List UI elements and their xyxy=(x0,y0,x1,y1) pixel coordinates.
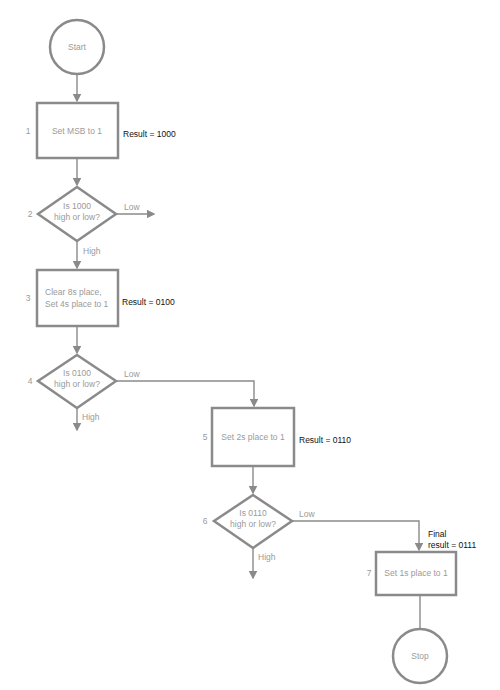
high-label-4: High xyxy=(82,412,100,422)
process-1-text: Set MSB to 1 xyxy=(52,126,102,136)
process-5-text: Set 2s place to 1 xyxy=(221,432,285,442)
decision-4-line1: Is 0100 xyxy=(63,368,91,378)
decision-4-line2: high or low? xyxy=(54,379,100,389)
decision-2-line1: Is 1000 xyxy=(63,201,91,211)
low-label-6: Low xyxy=(299,509,315,519)
start-label: Start xyxy=(68,42,87,52)
high-label-6: High xyxy=(258,552,276,562)
high-label-2: High xyxy=(83,246,101,256)
process-3-line2: Set 4s place to 1 xyxy=(45,299,109,309)
result-5: Result = 0110 xyxy=(299,435,351,445)
step-number-1: 1 xyxy=(26,126,31,136)
low-label-2: Low xyxy=(124,202,140,212)
decision-2-line2: high or low? xyxy=(54,212,100,222)
step-number-2: 2 xyxy=(28,209,33,219)
final-result-line1: Final xyxy=(428,529,447,539)
result-1: Result = 1000 xyxy=(123,129,176,139)
final-result-line2: result = 0111 xyxy=(428,540,476,550)
step-number-5: 5 xyxy=(203,432,208,442)
step-number-3: 3 xyxy=(26,293,31,303)
decision-6-line2: high or low? xyxy=(230,519,276,529)
step-number-6: 6 xyxy=(203,516,208,526)
result-3: Result = 0100 xyxy=(122,297,175,307)
connector-low-6 xyxy=(292,521,419,550)
process-box-3 xyxy=(37,270,118,326)
flowchart: Start Set MSB to 1 1 Result = 1000 Is 10… xyxy=(0,0,500,690)
step-number-7: 7 xyxy=(367,568,372,578)
step-number-4: 4 xyxy=(28,376,33,386)
process-3-line1: Clear 8s place, xyxy=(45,287,102,297)
process-7-text: Set 1s place to 1 xyxy=(384,568,448,578)
decision-6-line1: Is 0110 xyxy=(239,508,267,518)
stop-label: Stop xyxy=(411,651,429,661)
low-label-4: Low xyxy=(124,369,140,379)
connector-low-4 xyxy=(116,381,254,406)
